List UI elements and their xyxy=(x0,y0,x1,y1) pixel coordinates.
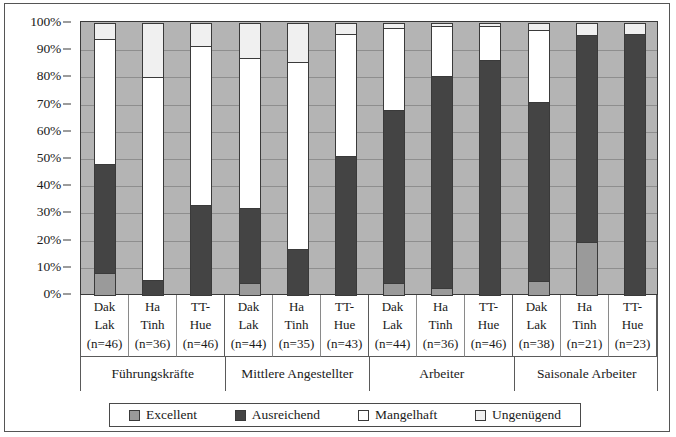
plot-area xyxy=(80,21,658,295)
bar-segment-ungenuegend[interactable] xyxy=(431,23,453,27)
stacked-bar[interactable] xyxy=(576,22,598,294)
bar-segment-mangelhaft[interactable] xyxy=(287,62,309,249)
bar-segment-ungenuegend[interactable] xyxy=(142,23,164,78)
stacked-bar[interactable] xyxy=(431,22,453,294)
category-label-line1: Dak xyxy=(382,298,404,316)
stacked-bar[interactable] xyxy=(383,22,405,294)
y-axis-tick-mark xyxy=(63,130,71,131)
bar-segment-ausreichend[interactable] xyxy=(94,164,116,274)
category-label-line1: TT- xyxy=(623,298,642,316)
category-label-line3: (n=44) xyxy=(375,335,411,353)
bar-slot xyxy=(563,22,611,294)
y-axis-tick-mark xyxy=(63,239,71,240)
bar-segment-excellent[interactable] xyxy=(94,273,116,296)
y-axis-tick-label: 40% xyxy=(37,177,61,193)
category-label-line3: (n=21) xyxy=(567,335,603,353)
y-axis-tick-label: 10% xyxy=(37,259,61,275)
y-axis-tick-label: 0% xyxy=(43,286,61,302)
bar-slot xyxy=(370,22,418,294)
legend-item-excellent[interactable]: Excellent xyxy=(129,407,197,423)
bar-segment-excellent[interactable] xyxy=(576,242,598,296)
stacked-bar[interactable] xyxy=(479,22,501,294)
bar-segment-excellent[interactable] xyxy=(239,283,261,296)
category-label-line3: (n=43) xyxy=(327,335,363,353)
bar-segment-ausreichend[interactable] xyxy=(528,102,550,283)
bar-slot xyxy=(322,22,370,294)
bar-segment-ungenuegend[interactable] xyxy=(287,23,309,63)
bar-segment-ungenuegend[interactable] xyxy=(624,23,646,35)
legend-item-mangelhaft[interactable]: Mangelhaft xyxy=(358,407,437,423)
group-label-cell: Arbeiter xyxy=(370,357,515,391)
chart-frame: 0%10%20%30%40%50%60%70%80%90%100% DakLak… xyxy=(4,3,670,432)
bar-segment-ausreichend[interactable] xyxy=(142,280,164,296)
category-label-line1: Ha xyxy=(145,298,160,316)
category-row: DakLak(n=46)HaTinh(n=36)TT-Hue(n=46)DakL… xyxy=(81,295,657,357)
bar-segment-ausreichend[interactable] xyxy=(190,205,212,296)
bar-slot xyxy=(129,22,177,294)
bar-segment-mangelhaft[interactable] xyxy=(94,39,116,165)
group-label-cell: Führungskräfte xyxy=(81,357,226,391)
bar-segment-ungenuegend[interactable] xyxy=(383,23,405,29)
bar-segment-ungenuegend[interactable] xyxy=(190,23,212,47)
bar-segment-mangelhaft[interactable] xyxy=(190,46,212,206)
bar-segment-ausreichend[interactable] xyxy=(479,60,501,296)
group-label: Arbeiter xyxy=(419,366,464,382)
bar-segment-mangelhaft[interactable] xyxy=(479,26,501,61)
stacked-bar[interactable] xyxy=(335,22,357,294)
legend-swatch-mangelhaft-icon xyxy=(358,410,369,421)
group-label: Saisonale Arbeiter xyxy=(537,366,636,382)
bar-segment-ausreichend[interactable] xyxy=(239,208,261,284)
bar-segment-ausreichend[interactable] xyxy=(576,35,598,243)
y-axis-tick-mark xyxy=(63,49,71,50)
bar-segment-mangelhaft[interactable] xyxy=(431,26,453,77)
y-axis-tick-label: 60% xyxy=(37,123,61,139)
group-row: FührungskräfteMittlere AngestellterArbei… xyxy=(81,357,657,391)
bar-segment-mangelhaft[interactable] xyxy=(528,30,550,103)
bar-segment-ausreichend[interactable] xyxy=(287,249,309,296)
category-label-cell: HaTinh(n=35) xyxy=(273,295,321,357)
legend-swatch-ungenuegend-icon xyxy=(475,410,486,421)
category-label-line1: Dak xyxy=(526,298,548,316)
bar-segment-mangelhaft[interactable] xyxy=(335,34,357,157)
legend-item-ungenuegend[interactable]: Ungenügend xyxy=(475,407,561,423)
category-label-line3: (n=46) xyxy=(87,335,123,353)
legend-item-ausreichend[interactable]: Ausreichend xyxy=(235,407,320,423)
category-label-line1: Dak xyxy=(94,298,116,316)
category-label-line2: Lak xyxy=(382,316,402,334)
bar-segment-ungenuegend[interactable] xyxy=(479,23,501,27)
stacked-bar[interactable] xyxy=(142,22,164,294)
stacked-bar[interactable] xyxy=(528,22,550,294)
stacked-bar[interactable] xyxy=(287,22,309,294)
bar-segment-ausreichend[interactable] xyxy=(431,76,453,289)
bar-segment-ausreichend[interactable] xyxy=(624,34,646,296)
category-label-line2: Hue xyxy=(190,316,212,334)
stacked-bar[interactable] xyxy=(624,22,646,294)
bar-slot xyxy=(274,22,322,294)
bar-segment-ungenuegend[interactable] xyxy=(94,23,116,40)
category-label-line3: (n=36) xyxy=(423,335,459,353)
bar-segment-ungenuegend[interactable] xyxy=(576,23,598,36)
bar-segment-mangelhaft[interactable] xyxy=(239,58,261,209)
stacked-bar[interactable] xyxy=(190,22,212,294)
category-label-line2: Lak xyxy=(238,316,258,334)
category-label-line2: Lak xyxy=(526,316,546,334)
bar-segment-ungenuegend[interactable] xyxy=(335,23,357,35)
bar-segment-ausreichend[interactable] xyxy=(383,110,405,284)
bar-segment-excellent[interactable] xyxy=(383,283,405,296)
group-label: Führungskräfte xyxy=(112,366,194,382)
bar-segment-ungenuegend[interactable] xyxy=(239,23,261,59)
stacked-bar[interactable] xyxy=(239,22,261,294)
bar-segment-mangelhaft[interactable] xyxy=(142,77,164,281)
y-axis-tick-label: 100% xyxy=(30,14,61,30)
category-label-line3: (n=23) xyxy=(615,335,651,353)
bar-segment-excellent[interactable] xyxy=(528,281,550,296)
category-label-line1: TT- xyxy=(479,298,498,316)
bar-segment-mangelhaft[interactable] xyxy=(383,28,405,111)
y-axis: 0%10%20%30%40%50%60%70%80%90%100% xyxy=(13,14,71,302)
category-label-line3: (n=44) xyxy=(231,335,267,353)
category-label-line1: TT- xyxy=(191,298,210,316)
stacked-bar[interactable] xyxy=(94,22,116,294)
bar-slot xyxy=(515,22,563,294)
bar-segment-ausreichend[interactable] xyxy=(335,156,357,296)
bar-segment-ungenuegend[interactable] xyxy=(528,23,550,31)
